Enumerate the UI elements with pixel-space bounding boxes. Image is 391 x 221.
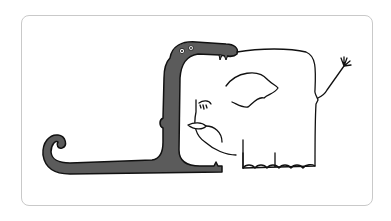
elephant-trunk [206,126,222,142]
elephant-eye [199,101,211,109]
elephant-feet [243,165,315,168]
snake-elephant-illustration [0,0,391,221]
elephant-tail [318,66,344,98]
snake-body [43,42,238,174]
elephant-body-outline [195,49,318,168]
snake [43,42,238,174]
elephant-tusk [188,123,206,129]
elephant-ear [226,73,278,107]
elephant [188,49,351,168]
elephant-tail-tuft [341,57,351,66]
